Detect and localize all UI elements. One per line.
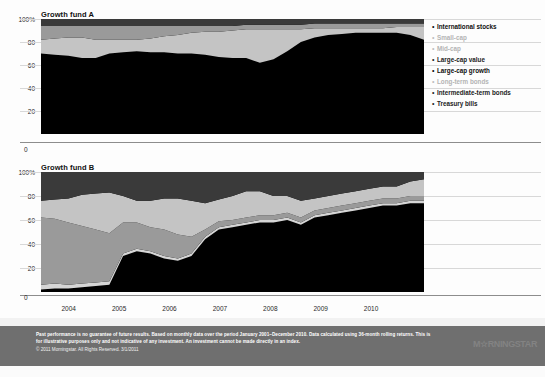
footer-inner: Past performance is no guarantee of futu…: [36, 332, 436, 354]
chart-a-y-axis: 100%80604020: [0, 8, 38, 158]
x-tick-label: 2007: [213, 305, 227, 312]
chart-a-area-svg: [41, 19, 424, 134]
legend-item: •Long-term bonds: [432, 77, 544, 87]
chart-b-plot-wrap: 100%80604020: [0, 161, 545, 313]
page-bottom-edge: [0, 366, 545, 377]
footer-disclaimer: Past performance is no guarantee of futu…: [36, 332, 436, 345]
legend: •International stocks•Small-cap•Mid-cap•…: [432, 22, 544, 110]
chart-a-baseline: [20, 142, 541, 143]
x-tick-label: 2008: [263, 305, 277, 312]
chart-b-zero-label: 0: [24, 294, 28, 301]
legend-item: •Treasury bills: [432, 99, 544, 109]
footer: Past performance is no guarantee of futu…: [0, 326, 545, 366]
chart-a-plot-area: [41, 19, 424, 134]
legend-item-label: Mid-cap: [437, 44, 461, 54]
x-tick-label: 2009: [313, 305, 327, 312]
legend-item-label: Treasury bills: [437, 99, 478, 109]
legend-item-label: Large-cap growth: [437, 66, 490, 76]
x-tick-label: 2006: [162, 305, 176, 312]
legend-item: •Large-cap value: [432, 55, 544, 65]
footer-spacer: [0, 318, 545, 326]
legend-item-label: Long-term bonds: [437, 77, 489, 87]
chart-a-zero-label: 0: [24, 146, 28, 153]
legend-item: •Small-cap: [432, 33, 544, 43]
legend-item-label: Large-cap value: [437, 55, 485, 65]
report-page: Growth fund A 100%80604020 Growth fund B…: [0, 0, 545, 377]
chart-b-plot-area: [41, 172, 424, 292]
legend-item: •Mid-cap: [432, 44, 544, 54]
footer-copyright: © 2011 Morningstar. All Rights Reserved.…: [36, 347, 436, 354]
x-tick-label: 2004: [61, 305, 75, 312]
x-tick-label: 2005: [112, 305, 126, 312]
legend-item: •Large-cap growth: [432, 66, 544, 76]
legend-item: •Intermediate-term bonds: [432, 88, 544, 98]
morningstar-logo: M☆RNINGSTAR: [473, 339, 537, 349]
x-axis: 0 2004200520062007200820092010: [0, 299, 545, 315]
chart-b-area-svg: [41, 172, 424, 292]
x-tick-label: 2010: [364, 305, 378, 312]
legend-item-label: International stocks: [437, 22, 497, 32]
legend-item-label: Small-cap: [437, 33, 467, 43]
legend-item-label: Intermediate-term bonds: [437, 88, 511, 98]
chart-b-y-axis: 100%80604020: [0, 161, 38, 313]
legend-item: •International stocks: [432, 22, 544, 32]
chart-b-baseline: [20, 295, 541, 296]
chart-panel-growth-fund-b: Growth fund B 100%80604020: [0, 161, 545, 313]
